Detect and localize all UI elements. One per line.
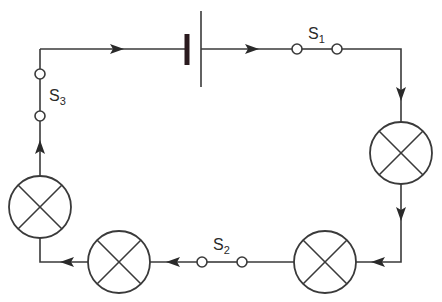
- s3-terminal-top: [35, 69, 45, 79]
- wire-bottom-left: [40, 238, 88, 262]
- wires: [40, 49, 401, 262]
- s1-label: S1: [308, 25, 325, 45]
- wire-top-right: [342, 49, 401, 122]
- lamp-right: [370, 122, 432, 184]
- s2-label: S2: [213, 236, 230, 256]
- wire-right-lower: [356, 184, 401, 262]
- s1-terminal-right: [332, 44, 342, 54]
- lamp-left: [9, 176, 71, 238]
- s2-terminal-left: [197, 257, 207, 267]
- lamp-bottom-left: [88, 231, 150, 293]
- s3-terminal-bottom: [35, 111, 45, 121]
- s1-terminal-left: [292, 44, 302, 54]
- s2-terminal-right: [237, 257, 247, 267]
- s3-label: S3: [49, 87, 66, 107]
- current-arrows: [35, 44, 406, 267]
- lamp-bottom-right: [294, 231, 356, 293]
- circuit-diagram: S1 S2 S3: [0, 0, 442, 302]
- battery: [187, 11, 201, 87]
